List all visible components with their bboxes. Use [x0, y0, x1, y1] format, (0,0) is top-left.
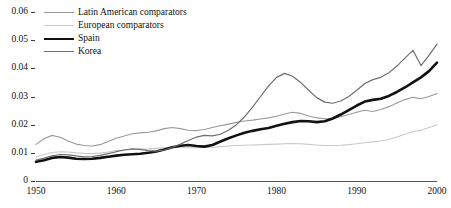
series-line-spain	[36, 63, 437, 162]
legend-label: Latin American comparators	[78, 6, 187, 19]
series-line-korea	[36, 44, 437, 160]
legend-label: European comparators	[78, 19, 164, 32]
series-line-european-comparators	[36, 125, 437, 157]
legend-swatch-line-icon	[44, 38, 74, 40]
legend-label: Korea	[78, 45, 101, 58]
series-line-latin-american-comparators	[36, 93, 437, 146]
legend-label: Spain	[78, 32, 100, 45]
legend-swatch-line-icon	[44, 51, 74, 52]
legend-swatch-line-icon	[44, 25, 74, 26]
legend-swatch-line-icon	[44, 12, 74, 13]
